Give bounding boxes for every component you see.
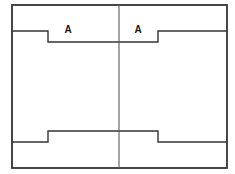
technical-drawing-canvas: A A xyxy=(0,0,235,174)
drawing-background xyxy=(0,0,235,174)
section-marker-right-label: A xyxy=(134,24,141,35)
drawing-svg: A A xyxy=(0,0,235,174)
section-marker-left-label: A xyxy=(64,24,71,35)
